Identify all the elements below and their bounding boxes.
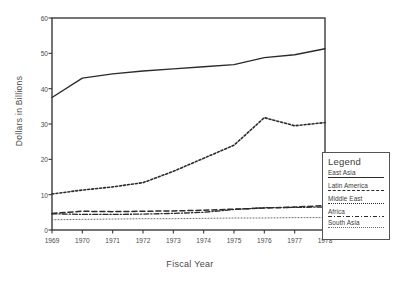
legend-entry-south-asia: South Asia	[328, 219, 385, 231]
series-line-middle-east	[52, 118, 325, 194]
legend-swatch-latin-america	[328, 190, 384, 194]
legend-entry-east-asia: East Asia	[328, 169, 385, 181]
legend-swatch-africa	[328, 216, 384, 218]
legend-swatch-east-asia	[328, 177, 384, 181]
legend-title: Legend	[328, 156, 385, 167]
legend-entries: East AsiaLatin AmericaMiddle EastAfricaS…	[328, 169, 385, 231]
series-line-south-asia	[52, 218, 325, 220]
series-line-east-asia	[52, 49, 325, 98]
legend-entry-latin-america: Latin America	[328, 182, 385, 194]
legend-label-africa: Africa	[328, 208, 385, 216]
line-chart-figure: Dollars in Billions Fiscal Year 01020304…	[0, 0, 405, 281]
legend-label-south-asia: South Asia	[328, 219, 385, 227]
legend-entry-middle-east: Middle East	[328, 195, 385, 207]
legend-swatch-south-asia	[328, 227, 384, 231]
legend-entry-africa: Africa	[328, 208, 385, 218]
legend-label-east-asia: East Asia	[328, 169, 385, 177]
legend-box: Legend East AsiaLatin AmericaMiddle East…	[322, 152, 390, 240]
legend-label-latin-america: Latin America	[328, 182, 385, 190]
legend-label-middle-east: Middle East	[328, 195, 385, 203]
legend-swatch-middle-east	[328, 203, 384, 207]
